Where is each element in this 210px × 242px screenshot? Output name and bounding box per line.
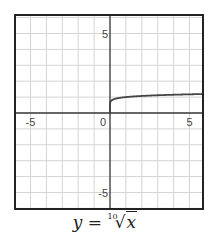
- plot-frame: [15, 15, 203, 209]
- radicand: x: [126, 211, 138, 232]
- x-tick-label: -5: [26, 116, 36, 128]
- function-plot: -505-55: [0, 0, 210, 212]
- x-tick-label: 0: [100, 116, 106, 128]
- y-tick-label: -5: [98, 187, 108, 199]
- y-tick-label: 5: [102, 28, 108, 40]
- equation-caption: y = 10√x: [0, 212, 210, 232]
- radical-sign: √: [115, 212, 126, 232]
- x-tick-label: 5: [186, 116, 192, 128]
- caption-lhs: y =: [73, 212, 102, 232]
